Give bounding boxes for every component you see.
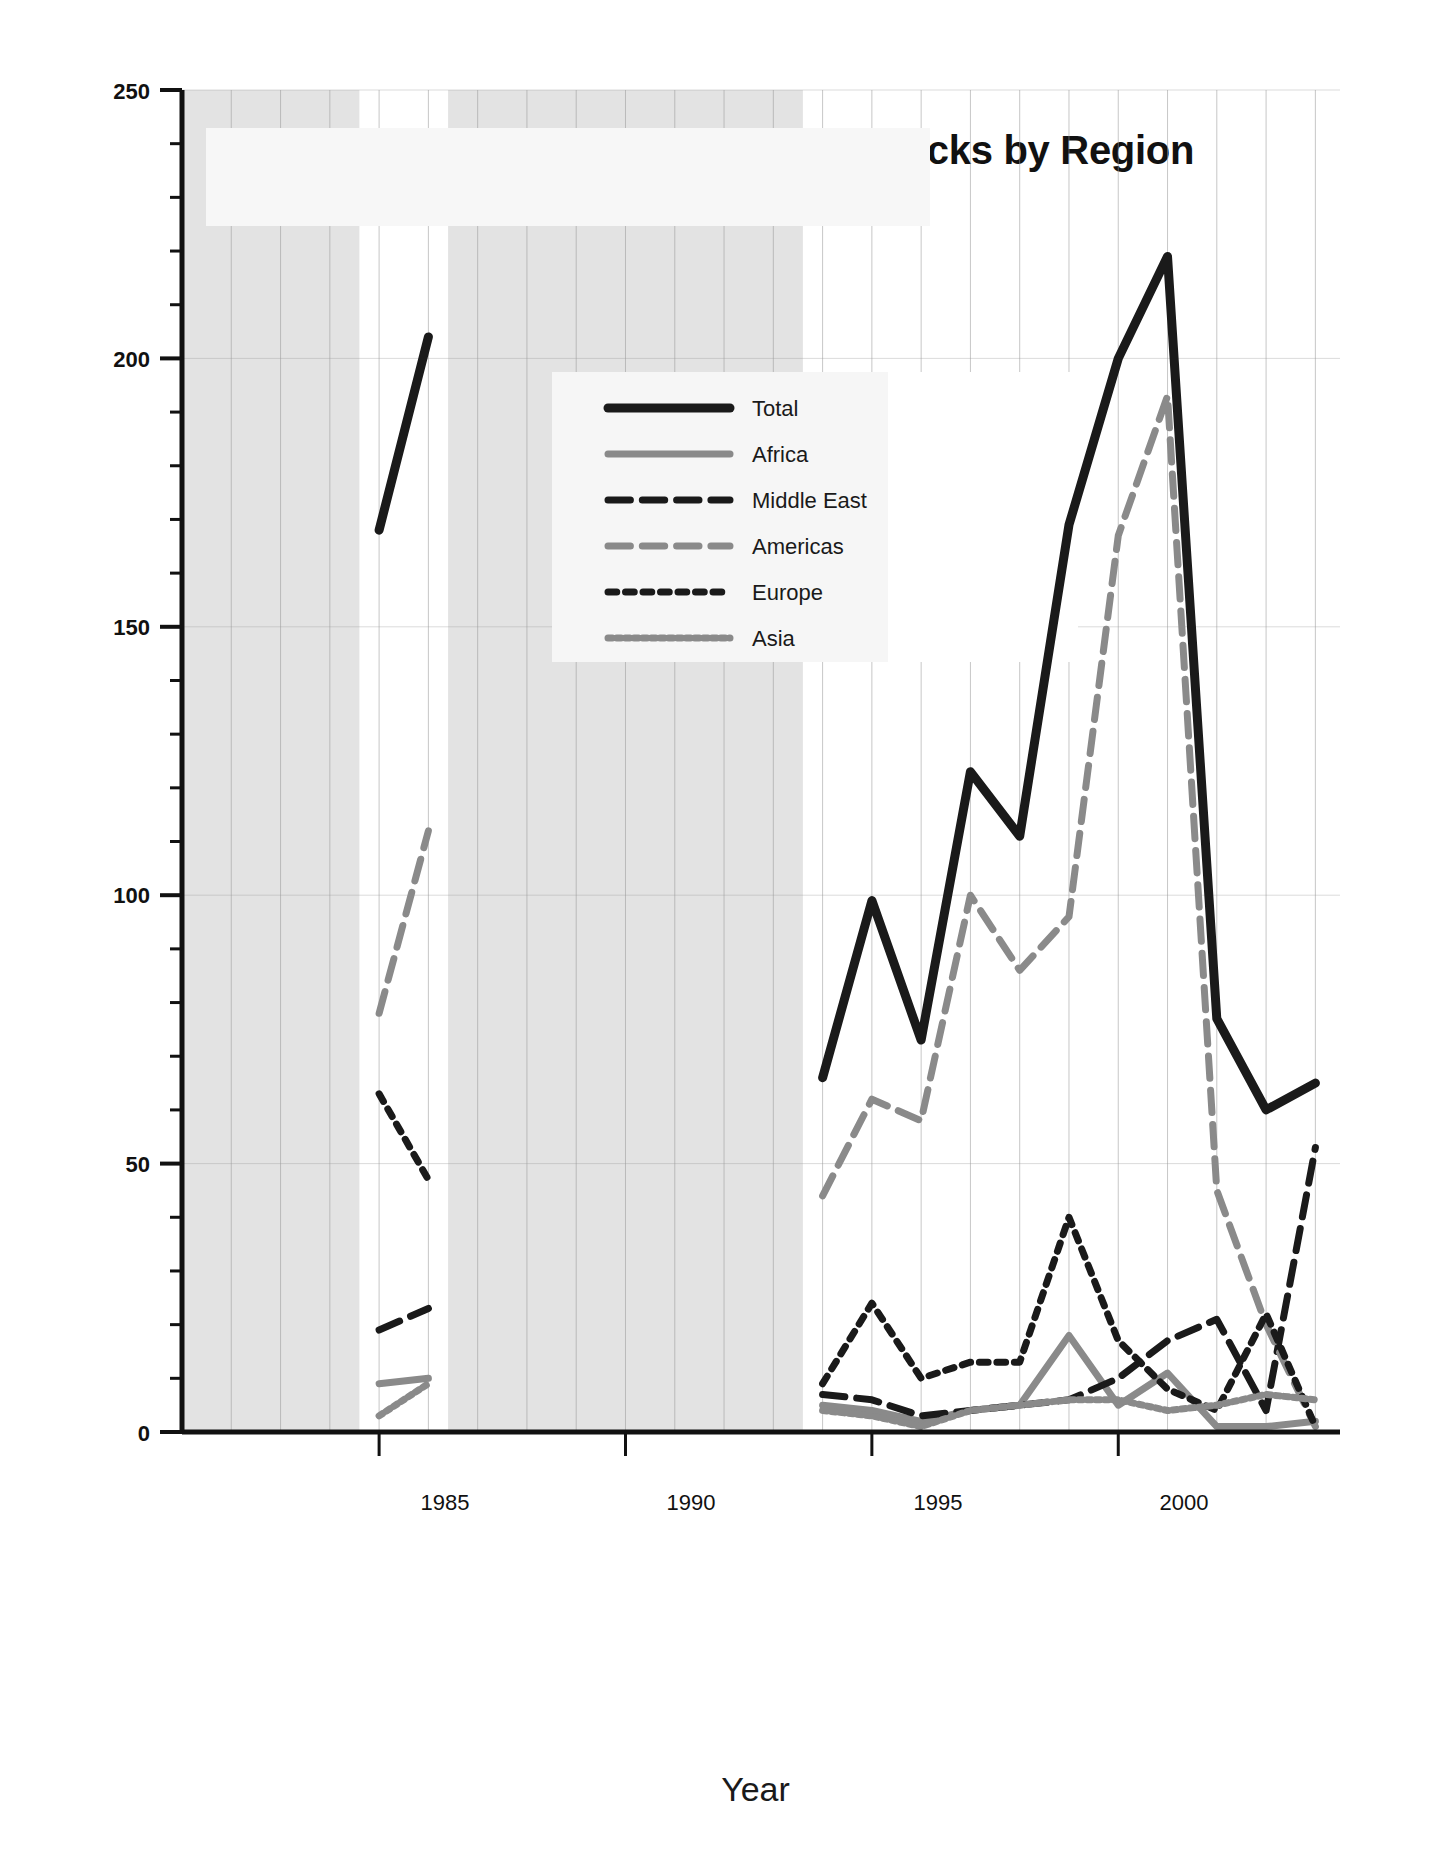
title-mask bbox=[206, 128, 930, 226]
legend-mask-left bbox=[552, 372, 888, 662]
legend-mask-right bbox=[888, 372, 1078, 662]
series-line-europe bbox=[379, 1094, 428, 1180]
legend-label-europe: Europe bbox=[752, 580, 823, 606]
series-line-asia bbox=[379, 1384, 428, 1416]
legend-label-asia: Asia bbox=[752, 626, 795, 652]
series-line-middle-east bbox=[379, 1309, 428, 1331]
legend-label-africa: Africa bbox=[752, 442, 808, 468]
legend-label-total: Total bbox=[752, 396, 798, 422]
series-line-africa bbox=[379, 1378, 428, 1383]
no-data-band-0 bbox=[182, 90, 359, 1432]
series-line-total bbox=[379, 337, 428, 530]
legend-label-americas: Americas bbox=[752, 534, 844, 560]
chart-figure: Number of Anti-US Attacks 250 200 150 10… bbox=[0, 0, 1451, 1867]
series-line-americas bbox=[379, 831, 428, 1014]
legend-label-middle-east: Middle East bbox=[752, 488, 867, 514]
plot-canvas bbox=[0, 0, 1451, 1867]
